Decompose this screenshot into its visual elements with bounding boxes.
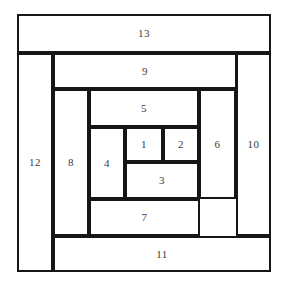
- region-4: 4: [89, 127, 125, 199]
- region-1: 1: [125, 127, 163, 162]
- region-8: 8: [53, 89, 89, 236]
- region-7: 7: [89, 199, 200, 236]
- spiral-dissection-diagram: 12345678910111213: [0, 0, 283, 286]
- region-label-12: 12: [29, 157, 41, 168]
- region-label-5: 5: [141, 102, 147, 113]
- region-label-13: 13: [138, 28, 150, 39]
- region-label-3: 3: [159, 175, 165, 186]
- region-6: 6: [199, 89, 236, 199]
- region-label-8: 8: [68, 157, 74, 168]
- region-12: 12: [17, 53, 53, 272]
- region-label-10: 10: [248, 139, 260, 150]
- region-3: 3: [125, 162, 199, 199]
- region-label-7: 7: [142, 212, 148, 223]
- region-2: 2: [163, 127, 199, 162]
- region-label-11: 11: [156, 248, 168, 259]
- region-11: 11: [53, 236, 271, 272]
- region-5: 5: [89, 89, 199, 127]
- region-9: 9: [53, 53, 237, 89]
- region-label-9: 9: [142, 65, 148, 76]
- region-label-6: 6: [215, 138, 221, 149]
- region-10: 10: [236, 53, 271, 236]
- region-13: 13: [17, 14, 271, 53]
- region-label-1: 1: [141, 139, 147, 150]
- region-label-2: 2: [178, 139, 184, 150]
- region-label-4: 4: [104, 157, 110, 168]
